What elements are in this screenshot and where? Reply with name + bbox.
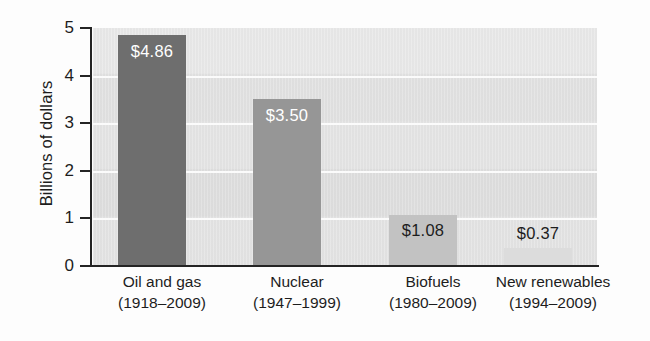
y-axis-title: Billions of dollars [37,19,56,269]
y-tick-label-1: 1 [50,208,74,228]
y-tick-3 [80,122,91,124]
bar-nuclear[interactable]: $3.50 [253,99,321,266]
bar-chart: Billions of dollars $4.86 $3.50 $1.08 $0… [0,0,650,341]
y-tick-label-5: 5 [50,18,74,38]
y-tick-1 [80,217,91,219]
y-tick-label-2: 2 [50,161,74,181]
bar-new-renewables[interactable]: $0.37 [504,248,572,266]
y-tick-5 [80,27,91,29]
y-tick-label-0: 0 [50,256,74,276]
y-tick-label-4: 4 [50,66,74,86]
y-tick-2 [80,170,91,172]
x-label-line2: (1994–2009) [468,293,638,314]
bar-value-label-oil-and-gas: $4.86 [118,42,186,61]
y-tick-label-3: 3 [50,113,74,133]
bar-biofuels[interactable]: $1.08 [389,215,457,266]
bar-value-label-new-renewables: $0.37 [504,224,572,243]
bar-oil-and-gas[interactable]: $4.86 [118,35,186,266]
y-tick-0 [80,265,91,267]
x-label-new-renewables: New renewables (1994–2009) [468,272,638,313]
x-label-line1: New renewables [468,272,638,293]
plot-area: $4.86 $3.50 $1.08 $0.37 [93,28,597,266]
bar-value-label-nuclear: $3.50 [253,106,321,125]
bar-value-label-biofuels: $1.08 [389,221,457,240]
y-tick-4 [80,75,91,77]
y-axis-line [90,27,92,267]
x-axis-line [90,265,599,267]
